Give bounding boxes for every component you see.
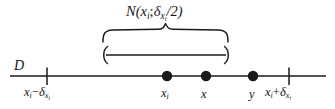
- neighborhood-set-label: N(xi;δxi/2): [126, 4, 183, 22]
- point-marker-y: [248, 71, 258, 81]
- right-boundary-label: xi+δxi: [265, 86, 291, 102]
- neighborhood-number-line-figure: N(xi;δxi/2) D xi−δxi xi x y xi+δxi: [0, 0, 335, 109]
- set-label-suffix: /2): [167, 3, 183, 19]
- point-marker-x: [201, 71, 211, 81]
- right-boundary-delta-subscript: xi: [286, 91, 291, 100]
- point-marker-xi: [162, 71, 172, 81]
- right-boundary-delta-sub-index: i: [289, 95, 291, 101]
- left-boundary-label: xi−δxi: [24, 86, 50, 102]
- neighborhood-curly-brace: [103, 24, 228, 42]
- left-boundary-delta-sub-index: i: [48, 95, 50, 101]
- point-label-xi: xi: [161, 87, 169, 102]
- point-label-x: x: [201, 88, 207, 101]
- domain-label: D: [14, 59, 24, 73]
- left-boundary-minus-sign: −: [32, 85, 39, 99]
- point-label-y: y: [249, 88, 255, 101]
- set-label-prefix: N(: [126, 3, 141, 19]
- point-label-xi-subscript: i: [167, 92, 169, 101]
- right-boundary-plus-sign: +: [273, 85, 280, 99]
- left-boundary-delta-subscript: xi: [45, 91, 50, 100]
